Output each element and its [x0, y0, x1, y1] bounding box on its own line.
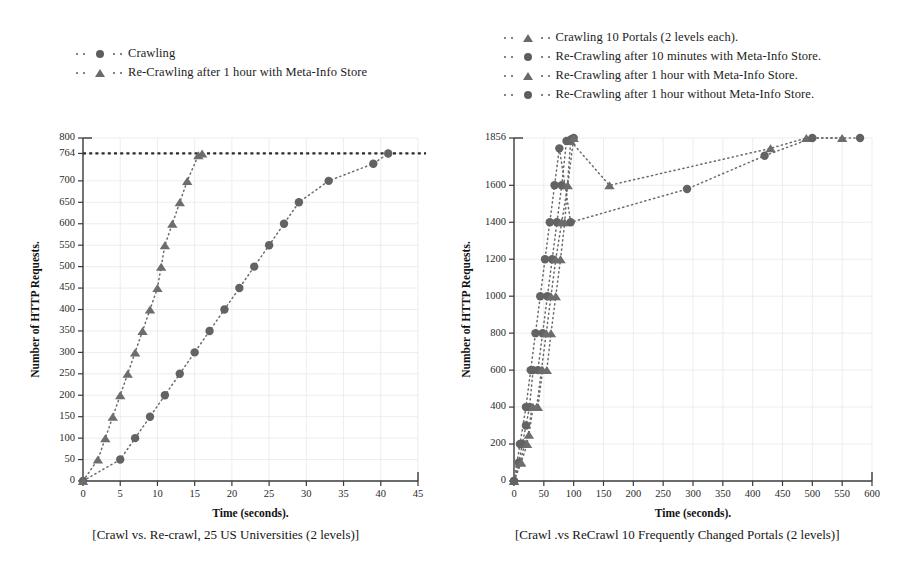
svg-text:5: 5 [118, 488, 123, 499]
svg-text:Number of HTTP Requests.: Number of HTTP Requests. [29, 241, 42, 378]
svg-text:400: 400 [490, 400, 506, 411]
svg-text:250: 250 [59, 367, 75, 378]
svg-text:400: 400 [744, 488, 760, 499]
svg-text:250: 250 [655, 488, 671, 499]
svg-text:600: 600 [864, 488, 880, 499]
svg-text:10: 10 [152, 488, 163, 499]
svg-text:350: 350 [59, 324, 75, 335]
svg-text:30: 30 [301, 488, 312, 499]
svg-text:35: 35 [338, 488, 349, 499]
svg-text:1000: 1000 [485, 290, 506, 301]
svg-text:500: 500 [59, 260, 75, 271]
svg-text:450: 450 [774, 488, 790, 499]
chart-panel-right: Crawling 10 Portals (2 levels each). Re-… [452, 0, 903, 576]
svg-text:200: 200 [59, 389, 75, 400]
caption-right: [Crawl .vs ReCrawl 10 Frequently Changed… [452, 527, 903, 543]
svg-text:650: 650 [59, 196, 75, 207]
svg-text:Number of HTTP Requests.: Number of HTTP Requests. [460, 241, 473, 378]
svg-text:20: 20 [227, 488, 238, 499]
svg-text:300: 300 [59, 346, 75, 357]
svg-text:0: 0 [80, 488, 85, 499]
svg-text:50: 50 [538, 488, 549, 499]
svg-text:500: 500 [804, 488, 820, 499]
svg-text:400: 400 [59, 303, 75, 314]
svg-text:450: 450 [59, 281, 75, 292]
svg-text:45: 45 [413, 488, 424, 499]
svg-text:1400: 1400 [485, 216, 506, 227]
chart-panel-left: Crawling Re-Crawling after 1 hour with M… [0, 0, 452, 576]
svg-text:150: 150 [59, 410, 75, 421]
plot-area-right: 0200400600800100012001400160018560501001… [452, 0, 903, 520]
plot-area-left: 0501001502002503003504004505005506006507… [0, 0, 451, 520]
svg-text:0: 0 [70, 474, 75, 485]
svg-text:1600: 1600 [485, 179, 506, 190]
svg-text:200: 200 [490, 437, 506, 448]
svg-text:200: 200 [625, 488, 641, 499]
svg-text:700: 700 [59, 174, 75, 185]
svg-text:Time (seconds).: Time (seconds). [212, 507, 289, 520]
svg-text:550: 550 [834, 488, 850, 499]
svg-text:50: 50 [65, 453, 76, 464]
svg-text:550: 550 [59, 239, 75, 250]
svg-text:0: 0 [511, 488, 516, 499]
svg-text:15: 15 [189, 488, 200, 499]
svg-text:0: 0 [500, 474, 505, 485]
svg-text:40: 40 [376, 488, 387, 499]
caption-left: [Crawl vs. Re-crawl, 25 US Universities … [0, 527, 452, 543]
svg-text:1856: 1856 [485, 131, 506, 142]
svg-text:300: 300 [685, 488, 701, 499]
svg-text:150: 150 [595, 488, 611, 499]
svg-text:800: 800 [490, 327, 506, 338]
figure-container: Crawling Re-Crawling after 1 hour with M… [0, 0, 903, 576]
svg-text:1200: 1200 [485, 253, 506, 264]
svg-text:764: 764 [59, 147, 76, 158]
svg-text:800: 800 [59, 131, 75, 142]
svg-text:100: 100 [565, 488, 581, 499]
svg-text:25: 25 [264, 488, 275, 499]
svg-text:600: 600 [490, 364, 506, 375]
svg-text:100: 100 [59, 432, 75, 443]
svg-text:600: 600 [59, 217, 75, 228]
svg-text:Time (seconds).: Time (seconds). [654, 507, 731, 520]
svg-text:350: 350 [714, 488, 730, 499]
